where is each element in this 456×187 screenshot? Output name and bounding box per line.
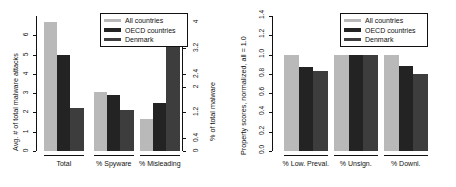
left-chart-y2-tick-label: 3.2 xyxy=(192,41,199,55)
right-chart-y-tick-label: 1.4 xyxy=(258,7,265,23)
left-chart-x-tick-label: % Misleading xyxy=(126,160,194,167)
left-chart-y-tick xyxy=(33,151,36,152)
right-chart-y-tick-label: 0.0 xyxy=(258,142,265,158)
right-chart-y-tick xyxy=(269,74,272,75)
left-chart-y2-tick-label: 1.2 xyxy=(192,105,199,119)
left-chart-bar xyxy=(153,103,166,151)
right-chart-x-axis-rule xyxy=(334,155,378,156)
left-chart-legend-item: All countries xyxy=(104,17,183,24)
left-chart-y-axis-title: Avg. # of total malware attacks xyxy=(11,53,20,151)
right-chart-x-axis-rule xyxy=(384,155,428,156)
left-chart-legend-item: OECD countries xyxy=(104,27,183,34)
right-chart-y-tick-label: 1.2 xyxy=(258,26,265,42)
right-chart-y-axis-title: Property scores, normalized, all = 1.0 xyxy=(239,36,248,155)
right-chart-y-tick xyxy=(269,132,272,133)
left-chart-legend-label: All countries xyxy=(125,17,163,24)
left-chart-legend-label: OECD countries xyxy=(125,27,176,34)
left-chart-bar xyxy=(57,55,70,151)
right-chart-y-tick xyxy=(269,93,272,94)
right-chart-legend: All countriesOECD countriesDenmark xyxy=(340,13,428,47)
figure-two-bar-charts: Avg. # of total malware attacks % of tot… xyxy=(0,0,456,187)
left-chart-y2-tick xyxy=(183,87,186,88)
right-chart-bar xyxy=(384,55,399,151)
right-chart-y-tick-label: 0.6 xyxy=(258,84,265,100)
left-chart-y2-tick-label: 2 xyxy=(192,79,199,93)
right-chart-x-axis-rule xyxy=(284,155,328,156)
right-chart-y-tick xyxy=(269,16,272,17)
right-chart-legend-label: All countries xyxy=(365,17,403,24)
left-chart-y-tick xyxy=(33,93,36,94)
left-chart-legend: All countriesOECD countriesDenmark xyxy=(100,13,188,47)
right-chart-y-tick-label: 0.4 xyxy=(258,103,265,119)
left-chart-bar xyxy=(44,22,57,151)
left-chart-legend-swatch-0 xyxy=(104,19,121,23)
right-chart-x-tick-label: % Downl. xyxy=(372,160,440,167)
left-chart-y2-tick xyxy=(183,138,186,139)
left-chart-y2-tick-label: 2.4 xyxy=(192,66,199,80)
right-chart-bar xyxy=(413,74,428,151)
left-chart-y-axis xyxy=(36,16,37,151)
right-chart-y-tick xyxy=(269,112,272,113)
left-chart-legend-item: Denmark xyxy=(104,36,183,43)
left-chart-y-tick xyxy=(33,35,36,36)
left-chart-bar xyxy=(140,119,153,151)
left-chart-x-axis-rule xyxy=(140,155,180,156)
right-chart-legend-item: OECD countries xyxy=(344,27,423,34)
left-chart-y-tick-label: 0 xyxy=(22,145,29,157)
right-chart-bar xyxy=(349,55,364,151)
left-chart-bar xyxy=(70,108,83,151)
right-chart-y-tick-label: 0.2 xyxy=(258,122,265,138)
left-chart-legend-swatch-2 xyxy=(104,38,121,42)
right-chart-legend-swatch-2 xyxy=(344,38,361,42)
left-chart-y-tick xyxy=(33,132,36,133)
left-chart-y-tick xyxy=(33,74,36,75)
left-chart-y-tick-label: 4 xyxy=(22,67,29,79)
right-chart-legend-label: Denmark xyxy=(365,36,393,43)
left-chart-y2-tick xyxy=(183,151,186,152)
left-chart-y-tick-label: 6 xyxy=(22,29,29,41)
left-chart-bar xyxy=(120,110,133,151)
left-chart-y2-tick-label: 0 xyxy=(192,144,199,158)
left-chart-legend-label: Denmark xyxy=(125,36,153,43)
left-chart-x-axis-rule xyxy=(44,155,84,156)
left-chart-y-tick xyxy=(33,112,36,113)
right-chart-y-tick xyxy=(269,35,272,36)
right-chart-y-tick xyxy=(269,151,272,152)
left-chart-x-axis-rule xyxy=(94,155,134,156)
left-chart-bar xyxy=(107,95,120,151)
left-chart-y2-tick xyxy=(183,48,186,49)
left-chart-bar xyxy=(94,92,107,151)
left-chart-y-tick-label: 5 xyxy=(22,48,29,60)
right-chart-legend-swatch-0 xyxy=(344,19,361,23)
left-chart-legend-swatch-1 xyxy=(104,28,121,32)
chart-panel-right: Property scores, normalized, all = 1.0 0… xyxy=(228,0,456,187)
left-chart-bar xyxy=(166,43,179,151)
right-chart-y-tick-label: 0.8 xyxy=(258,64,265,80)
right-chart-bar xyxy=(334,55,349,151)
right-chart-bar xyxy=(299,67,314,151)
right-chart-y-tick-label: 1.0 xyxy=(258,45,265,61)
right-chart-legend-item: Denmark xyxy=(344,36,423,43)
right-chart-legend-swatch-1 xyxy=(344,28,361,32)
left-chart-y2-tick-label: 4 xyxy=(192,15,199,29)
right-chart-bar xyxy=(363,55,378,151)
left-chart-y2-tick xyxy=(183,112,186,113)
right-chart-y-axis xyxy=(272,16,273,151)
right-chart-bar xyxy=(399,66,414,151)
left-chart-y-tick-label: 1 xyxy=(22,125,29,137)
left-chart-y2-tick xyxy=(183,74,186,75)
chart-panel-left: Avg. # of total malware attacks % of tot… xyxy=(0,0,228,187)
right-chart-legend-item: All countries xyxy=(344,17,423,24)
left-chart-y-tick-label: 2 xyxy=(22,106,29,118)
left-chart-y-tick xyxy=(33,55,36,56)
left-chart-y2-tick-label: 0.4 xyxy=(192,131,199,145)
right-chart-y-tick xyxy=(269,55,272,56)
right-chart-bar xyxy=(284,55,299,151)
left-chart-secondary-y-axis-title: % of total malware xyxy=(208,82,217,141)
left-chart-y-tick-label: 3 xyxy=(22,87,29,99)
right-chart-bar xyxy=(313,71,328,151)
right-chart-legend-label: OECD countries xyxy=(365,27,416,34)
